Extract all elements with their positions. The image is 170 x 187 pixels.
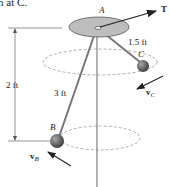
- label-vb: vB: [30, 152, 39, 163]
- orbit-b-path: [60, 126, 140, 150]
- rod-ab: [59, 30, 96, 137]
- ball-b: [50, 134, 64, 148]
- label-t: T: [161, 5, 167, 14]
- label-height: 2 ft: [6, 81, 18, 90]
- label-vc: vC: [146, 88, 155, 99]
- label-rod-length: 3 ft: [54, 89, 66, 98]
- label-a: A: [99, 6, 105, 15]
- diagram-graphics: [0, 0, 170, 187]
- velocity-b-arrow: [48, 152, 71, 166]
- diagram: n at C. A T 1.5 ft C vC 2 ft 3 ft B vB: [0, 0, 170, 187]
- label-b: B: [50, 123, 56, 132]
- caption-fragment: n at C.: [0, 0, 27, 8]
- label-c: C: [138, 50, 144, 59]
- label-radius: 1.5 ft: [128, 38, 147, 47]
- ball-c: [137, 60, 149, 72]
